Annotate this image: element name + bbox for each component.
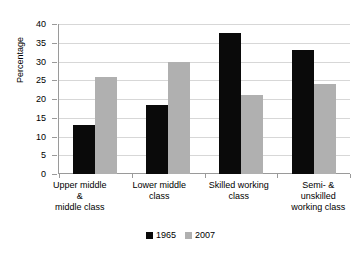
legend-swatch-1965 bbox=[146, 232, 153, 239]
bar-1965-4[interactable] bbox=[292, 50, 314, 174]
x-axis-tick bbox=[277, 174, 278, 178]
y-axis-tick-label: 10 bbox=[36, 132, 46, 141]
bar-1965-2[interactable] bbox=[146, 105, 168, 174]
bar-group bbox=[277, 24, 350, 174]
bar-groups bbox=[59, 24, 350, 174]
y-axis-tick-label: 25 bbox=[36, 76, 46, 85]
category-label-2: Lower middle class bbox=[120, 180, 200, 213]
y-axis-tick-label: 0 bbox=[41, 170, 46, 179]
y-axis-tick-mark bbox=[52, 174, 57, 175]
y-axis-tick-mark bbox=[52, 137, 57, 138]
legend-swatch-2007 bbox=[185, 232, 192, 239]
bar-chart: Percentage 0510152025303540 Upper middle… bbox=[0, 0, 361, 255]
legend-entry-2007[interactable]: 2007 bbox=[185, 231, 215, 240]
x-axis-tick-marks bbox=[59, 174, 350, 178]
chart-legend: 19652007 bbox=[0, 231, 361, 240]
bar-group bbox=[132, 24, 205, 174]
bar-2007-3[interactable] bbox=[241, 95, 263, 174]
y-axis-tick-label: 15 bbox=[36, 113, 46, 122]
y-axis-tick-label: 20 bbox=[36, 95, 46, 104]
y-axis-tick-mark bbox=[52, 155, 57, 156]
x-axis-tick bbox=[132, 174, 133, 178]
legend-label-2007: 2007 bbox=[195, 231, 215, 240]
bar-2007-2[interactable] bbox=[168, 62, 190, 175]
y-axis-tick-mark bbox=[52, 43, 57, 44]
bar-1965-1[interactable] bbox=[73, 125, 95, 174]
category-label-3: Skilled working class bbox=[199, 180, 279, 213]
y-axis-tick-label: 30 bbox=[36, 57, 46, 66]
y-axis-tick-label: 5 bbox=[41, 151, 46, 160]
y-axis-tick-mark bbox=[52, 118, 57, 119]
y-axis-tick-label: 35 bbox=[36, 38, 46, 47]
bar-2007-1[interactable] bbox=[95, 77, 117, 175]
x-axis-tick bbox=[350, 174, 351, 178]
y-axis-tick-label: 40 bbox=[36, 20, 46, 29]
category-label-4: Semi- & unskilled working class bbox=[279, 180, 359, 213]
y-axis-tick-mark bbox=[52, 24, 57, 25]
x-axis-tick bbox=[59, 174, 60, 178]
legend-label-1965: 1965 bbox=[156, 231, 176, 240]
legend-entry-1965[interactable]: 1965 bbox=[146, 231, 176, 240]
bar-2007-4[interactable] bbox=[314, 84, 336, 174]
x-axis-tick bbox=[205, 174, 206, 178]
x-axis-category-labels: Upper middle & middle classLower middle … bbox=[40, 180, 358, 213]
y-axis-tick-mark bbox=[52, 62, 57, 63]
bar-group bbox=[205, 24, 278, 174]
category-label-1: Upper middle & middle class bbox=[40, 180, 120, 213]
bar-1965-3[interactable] bbox=[219, 33, 241, 174]
y-axis-tick-mark bbox=[52, 99, 57, 100]
bar-group bbox=[59, 24, 132, 174]
y-axis-tick-mark bbox=[52, 80, 57, 81]
y-axis-tick-labels: 0510152025303540 bbox=[0, 24, 52, 174]
